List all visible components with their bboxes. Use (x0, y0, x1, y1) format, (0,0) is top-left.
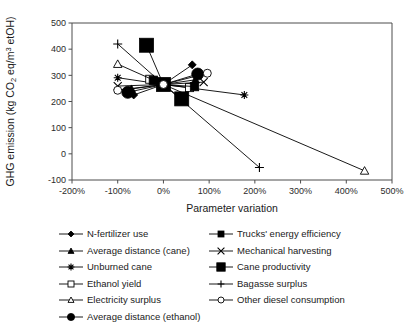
legend-column-right: Trucks' energy efficiencyMechanical harv… (208, 226, 413, 309)
chart-legend: N-fertilizer useAverage distance (cane)U… (0, 226, 413, 336)
y-tick-label: 300 (51, 71, 66, 81)
legend-item-label: Mechanical harvesting (237, 245, 332, 257)
legend-marker-plus (208, 277, 234, 291)
legend-marker-x-mark (208, 244, 234, 258)
legend-key-plus (208, 277, 234, 291)
legend-item[interactable]: Average distance (ethanol) (58, 309, 206, 326)
legend-item[interactable]: Trucks' energy efficiency (208, 226, 413, 243)
legend-item-label: Electricity surplus (87, 294, 161, 306)
marker-plus (218, 280, 225, 287)
marker-circle-open (114, 86, 122, 94)
marker-square-large-filled (217, 263, 225, 271)
legend-item[interactable]: Average distance (cane) (58, 243, 206, 260)
legend-item-label: Other diesel consumption (237, 294, 345, 306)
x-tick-label: 500% (380, 186, 403, 196)
legend-key-triangle-open (58, 293, 84, 307)
marker-circle-open (203, 69, 211, 77)
legend-item[interactable]: Bagasse surplus (208, 276, 413, 293)
legend-item-label: Ethanol yield (87, 278, 141, 290)
marker-circle-filled (192, 68, 204, 80)
chart-page: GHG emission (kg CO2 eq/m3 etOH) -100010… (0, 0, 413, 336)
legend-marker-square-large-filled (208, 260, 234, 274)
legend-item[interactable]: N-fertilizer use (58, 226, 206, 243)
legend-item-label: Average distance (cane) (87, 245, 190, 257)
x-tick-label: -200% (59, 186, 85, 196)
legend-item-label: Bagasse surplus (237, 278, 307, 290)
marker-asterisk (240, 91, 248, 99)
legend-marker-asterisk (58, 260, 84, 274)
marker-asterisk (68, 264, 75, 271)
legend-key-diamond-filled (58, 227, 84, 241)
ghg-sensitivity-scatter-chart: GHG emission (kg CO2 eq/m3 etOH) -100010… (0, 0, 413, 226)
marker-circle-open (159, 80, 167, 88)
legend-key-x-mark (208, 244, 234, 258)
marker-circle-filled (67, 313, 74, 320)
y-tick-label: 100 (51, 123, 66, 133)
legend-key-square-large-filled (208, 260, 234, 274)
x-tick-label: 200% (243, 186, 266, 196)
legend-item-label: N-fertilizer use (87, 228, 148, 240)
marker-diamond-filled (68, 231, 74, 237)
legend-key-triangle-filled (58, 244, 84, 258)
legend-key-circle-filled (58, 310, 84, 324)
legend-item[interactable]: Cane productivity (208, 259, 413, 276)
y-tick-label: 0 (61, 149, 66, 159)
legend-marker-diamond-filled (58, 227, 84, 241)
legend-key-square-open (58, 277, 84, 291)
x-tick-label: 300% (289, 186, 312, 196)
x-tick-label: -100% (105, 186, 131, 196)
y-tick-label: -100 (48, 175, 66, 185)
marker-square-open (68, 281, 74, 287)
legend-marker-square-open (58, 277, 84, 291)
legend-item-label: Cane productivity (237, 261, 310, 273)
marker-asterisk (114, 74, 122, 82)
legend-key-asterisk (58, 260, 84, 274)
x-tick-label: 400% (335, 186, 358, 196)
legend-item[interactable]: Other diesel consumption (208, 292, 413, 309)
y-tick-label: 400 (51, 44, 66, 54)
legend-item-label: Trucks' energy efficiency (237, 228, 341, 240)
legend-marker-triangle-open (58, 293, 84, 307)
legend-marker-square-filled (208, 227, 234, 241)
legend-column-left: N-fertilizer useAverage distance (cane)U… (58, 226, 206, 325)
x-axis-label-text: Parameter variation (186, 202, 278, 214)
legend-marker-circle-filled (58, 310, 84, 324)
marker-circle-open (218, 297, 224, 303)
legend-item-label: Average distance (ethanol) (87, 311, 200, 323)
legend-item[interactable]: Unburned cane (58, 259, 206, 276)
legend-item[interactable]: Electricity surplus (58, 292, 206, 309)
x-axis-title: Parameter variation (186, 202, 278, 214)
x-tick-label: 100% (198, 186, 221, 196)
legend-item[interactable]: Mechanical harvesting (208, 243, 413, 260)
legend-item-label: Unburned cane (87, 261, 152, 273)
legend-item[interactable]: Ethanol yield (58, 276, 206, 293)
marker-square-large-filled (175, 92, 189, 106)
marker-square-filled (190, 82, 198, 90)
legend-marker-circle-open (208, 293, 234, 307)
marker-square-filled (218, 231, 224, 237)
legend-key-circle-open (208, 293, 234, 307)
legend-marker-triangle-filled (58, 244, 84, 258)
y-tick-label: 500 (51, 18, 66, 28)
legend-key-square-filled (208, 227, 234, 241)
marker-square-large-filled (140, 38, 154, 52)
y-tick-label: 200 (51, 97, 66, 107)
x-tick-label: 0% (157, 186, 170, 196)
